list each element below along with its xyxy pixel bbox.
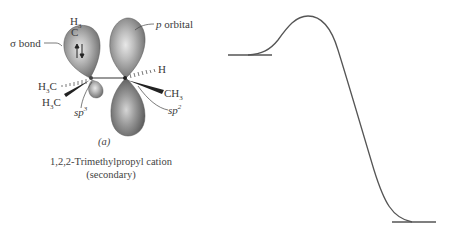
left-methyl-lower-c: C <box>53 96 60 108</box>
sp3-label: sp3 <box>74 107 87 118</box>
reaction-coordinate-curve <box>248 16 412 222</box>
sigma-bond-leader-line <box>44 43 62 46</box>
p-orbital-label-text: orbital <box>162 18 193 30</box>
p-orbital-lower-lobe <box>111 78 145 136</box>
sp3-superscript: 3 <box>84 105 88 113</box>
sp2-carbon-atom <box>123 76 127 80</box>
right-methyl-label: CH3 <box>164 88 183 99</box>
hashed-bond-left-methyl <box>62 79 86 87</box>
sp3-base: sp <box>74 106 84 118</box>
left-methyl-upper-label: H3C <box>38 81 57 92</box>
orbital-diagram <box>44 18 168 136</box>
figure-canvas <box>0 0 451 236</box>
left-methyl-lower-label: H3C <box>42 97 61 108</box>
sp3-carbon-atom <box>89 76 93 80</box>
right-methyl-subscript: 3 <box>179 94 183 102</box>
wedge-bond-left-methyl <box>64 80 90 97</box>
sp2-label: sp2 <box>168 105 181 116</box>
panel-label: (a) <box>98 136 110 148</box>
left-methyl-upper-h: H <box>38 80 46 92</box>
p-orbital-label: p orbital <box>156 19 193 30</box>
caption-compound-name: 1,2,2-Trimethylpropyl cation <box>46 156 176 168</box>
caption-classification: (secondary) <box>46 169 176 181</box>
hashed-bond-right-h <box>130 69 155 78</box>
right-h-label: H <box>158 64 166 75</box>
right-methyl-ch: CH <box>164 87 179 99</box>
left-methyl-upper-c: C <box>49 80 56 92</box>
top-methyl-carbon-label: C <box>71 27 78 38</box>
energy-diagram <box>228 16 436 222</box>
top-methyl-subscript: 3 <box>78 22 82 30</box>
sp2-superscript: 2 <box>178 103 182 111</box>
sp3-small-lobe <box>89 80 104 98</box>
sigma-bond-label: σ bond <box>10 38 41 49</box>
left-methyl-lower-h: H <box>42 96 50 108</box>
sp2-base: sp <box>168 104 178 116</box>
